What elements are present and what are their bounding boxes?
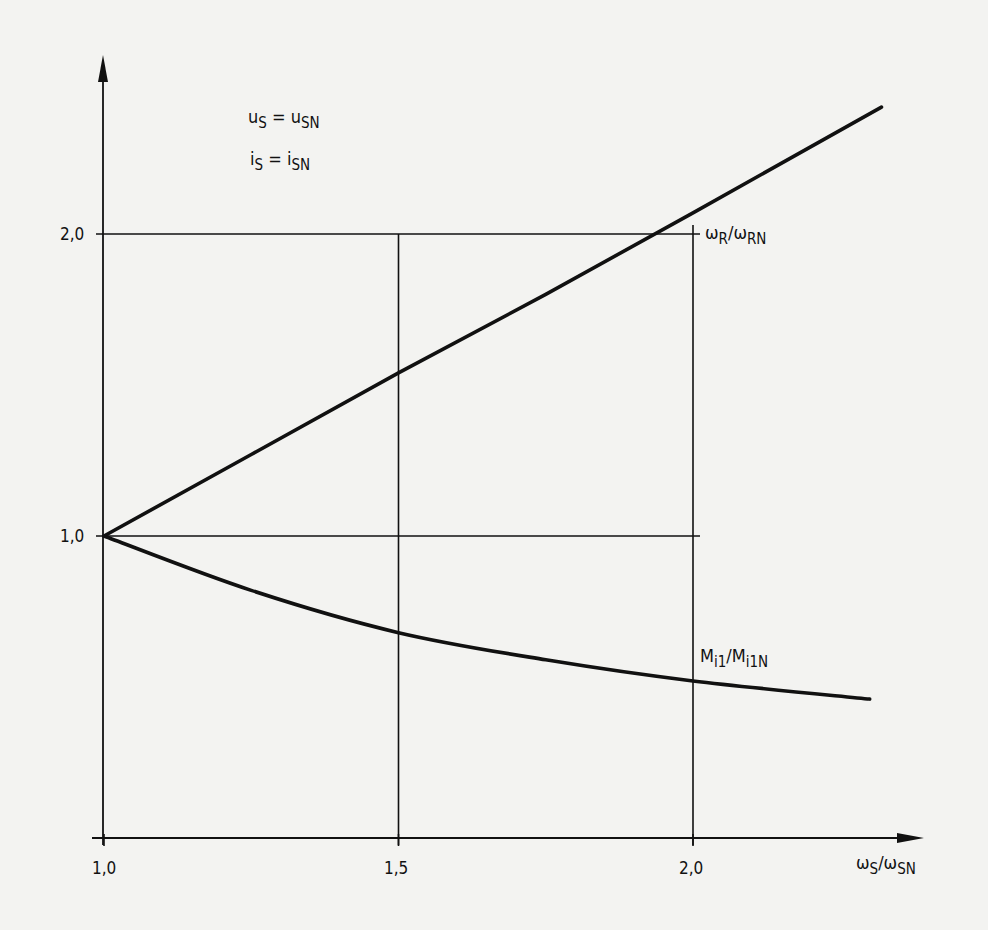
plot-area — [0, 0, 988, 930]
series-torque-curve — [104, 536, 870, 699]
series-label-torque: Mi1/Mi1N — [700, 645, 768, 671]
condition-current: iS = iSN — [250, 148, 310, 174]
condition-voltage: uS = uSN — [248, 106, 320, 132]
y-tick-label-2: 2,0 — [60, 224, 84, 244]
x-tick-label-1-5: 1,5 — [384, 858, 408, 878]
y-tick-label-1: 1,0 — [60, 526, 84, 546]
x-axis-arrow-icon — [897, 833, 924, 843]
axes — [92, 55, 924, 846]
chart-figure: 2,0 1,0 1,0 1,5 2,0 uS = uSN iS = iSN ωR… — [0, 0, 988, 930]
x-tick-label-2: 2,0 — [679, 858, 703, 878]
x-tick-label-1: 1,0 — [92, 858, 116, 878]
series-rotor-speed-line — [104, 107, 881, 536]
data-curves — [104, 107, 881, 699]
y-axis-arrow-icon — [98, 55, 108, 82]
series-label-rotor-speed: ωR/ωRN — [705, 222, 766, 248]
x-axis-label: ωS/ωSN — [856, 852, 916, 878]
grid-lines — [96, 225, 700, 845]
